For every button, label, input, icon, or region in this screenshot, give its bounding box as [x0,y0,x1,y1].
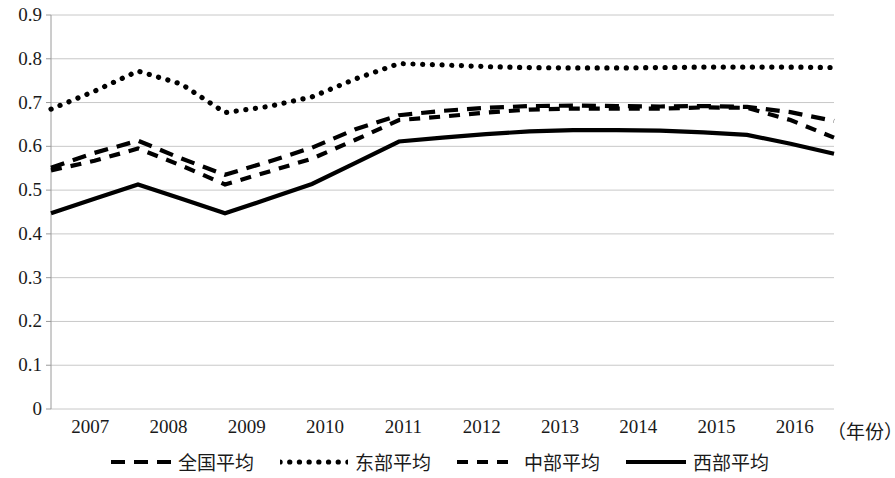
y-tick-label: 0 [33,399,43,418]
legend-item-label: 东部平均 [355,448,431,475]
x-tick-label: 2010 [285,417,365,436]
legend-item-2[interactable]: 东部平均 [280,448,431,475]
legend-item-label: 西部平均 [693,448,769,475]
x-tick-label: 2012 [442,417,522,436]
x-axis-unit-label: （年份） [827,417,895,444]
x-tick-label: 2013 [520,417,600,436]
series-lines [51,64,834,214]
x-tick-label: 2015 [677,417,757,436]
y-tick-label: 0.2 [18,311,42,330]
legend-swatch-dotted [280,455,348,469]
y-tick-label: 0.1 [18,355,42,374]
y-tick-label: 0.3 [18,268,42,287]
y-tick-label: 0.5 [18,180,42,199]
chart-legend: 全国平均东部平均中部平均西部平均 [0,445,880,478]
chart-canvas [0,0,880,412]
x-tick-label: 2008 [128,417,208,436]
plot-area [0,0,880,412]
series-line-2 [51,64,834,113]
legend-item-label: 中部平均 [524,448,600,475]
y-tick-label: 0.6 [18,136,42,155]
axis-lines [46,15,51,409]
series-line-1 [51,106,834,175]
legend-swatch-solid [626,455,686,469]
series-line-4 [51,130,834,213]
legend-swatch-dashed [111,455,171,469]
y-tick-label: 0.7 [18,93,42,112]
x-tick-label: 2007 [50,417,130,436]
y-tick-label: 0.8 [18,49,42,68]
x-tick-label: 2011 [363,417,443,436]
x-tick-label: 2014 [598,417,678,436]
legend-item-1[interactable]: 全国平均 [111,448,254,475]
y-tick-label: 0.4 [18,224,42,243]
legend-item-label: 全国平均 [178,448,254,475]
x-tick-label: 2009 [207,417,287,436]
legend-swatch-dashed-short [457,455,517,469]
legend-item-3[interactable]: 中部平均 [457,448,600,475]
legend-item-4[interactable]: 西部平均 [626,448,769,475]
x-tick-label: 2016 [755,417,835,436]
y-tick-label: 0.9 [18,5,42,24]
gridlines [51,15,834,409]
